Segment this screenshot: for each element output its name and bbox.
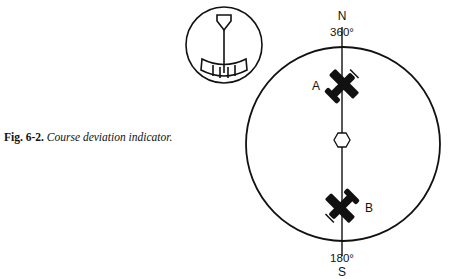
cdi-diagram: N 360° 180° S A B xyxy=(0,0,461,279)
south-heading: 180° xyxy=(330,252,354,264)
aircraft-a-label: A xyxy=(312,79,320,93)
north-label: N xyxy=(338,9,347,23)
south-label: S xyxy=(338,265,346,279)
aircraft-b-label: B xyxy=(365,201,373,215)
vor-station-icon xyxy=(334,133,350,147)
cdi-instrument-icon xyxy=(186,7,262,83)
north-heading: 360° xyxy=(330,26,354,38)
